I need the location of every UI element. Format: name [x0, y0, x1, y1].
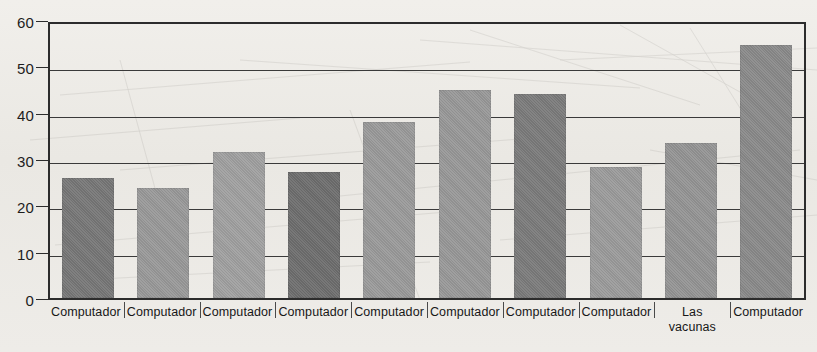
y-axis-tick-label: 40 [17, 106, 34, 123]
x-axis-label-slot: Las vacunas [654, 302, 730, 350]
x-axis-tick-label: Computador [278, 305, 348, 350]
bar[interactable] [665, 143, 717, 298]
y-axis-tick-mark [36, 160, 48, 161]
y-axis-tick-mark [36, 114, 48, 115]
x-axis-tick-label: Computador [354, 305, 424, 350]
x-axis-separator [730, 302, 731, 318]
bar[interactable] [213, 152, 265, 298]
bar[interactable] [590, 167, 642, 298]
x-axis-label-slot: Computador [730, 302, 806, 350]
x-axis-label-slot: Computador [48, 302, 124, 350]
bar-slot [125, 24, 200, 298]
y-axis-tick-label: 10 [17, 245, 34, 262]
bar[interactable] [740, 45, 792, 298]
plot-area [48, 22, 806, 300]
x-axis-label-slot: Computador [351, 302, 427, 350]
x-axis-tick-label: Computador [506, 305, 576, 350]
bar[interactable] [288, 172, 340, 298]
bar[interactable] [363, 122, 415, 298]
x-axis-separator [427, 302, 428, 318]
x-axis-label-slot: Computador [124, 302, 200, 350]
bar[interactable] [137, 188, 189, 299]
x-axis-separator [579, 302, 580, 318]
y-axis-tick-label: 0 [25, 292, 34, 309]
x-axis-tick-label: Computador [127, 305, 197, 350]
bar-slot [201, 24, 276, 298]
y-axis-tick-label: 60 [17, 14, 34, 31]
bar[interactable] [439, 90, 491, 298]
bar-series [50, 24, 804, 298]
x-axis-tick-label: Computador [51, 305, 121, 350]
x-axis-separator [351, 302, 352, 318]
x-axis-separator [200, 302, 201, 318]
bar-slot [653, 24, 728, 298]
bar-slot [50, 24, 125, 298]
x-axis-label-slot: Computador [503, 302, 579, 350]
bar-slot [502, 24, 577, 298]
x-axis-separator [124, 302, 125, 318]
x-axis-tick-label: Computador [203, 305, 273, 350]
y-axis-tick-mark [36, 21, 48, 22]
x-axis-tick-label: Computador [733, 305, 803, 350]
bar[interactable] [514, 94, 566, 298]
y-axis-tick-label: 50 [17, 60, 34, 77]
x-axis-tick-label: Computador [430, 305, 500, 350]
bar[interactable] [62, 178, 114, 298]
bar-slot [352, 24, 427, 298]
x-axis-label-slot: Computador [579, 302, 655, 350]
x-axis-label-slot: Computador [275, 302, 351, 350]
y-axis-tick-mark [36, 67, 48, 68]
y-axis-tick-mark [36, 206, 48, 207]
bar-slot [276, 24, 351, 298]
x-axis-label-slot: Computador [200, 302, 276, 350]
y-axis: 0102030405060 [0, 22, 48, 300]
x-axis-separator [503, 302, 504, 318]
bar-slot [578, 24, 653, 298]
x-axis: ComputadorComputadorComputadorComputador… [48, 302, 806, 350]
y-axis-tick-mark [36, 299, 48, 300]
x-axis-separator [275, 302, 276, 318]
bar-slot [427, 24, 502, 298]
bar-chart: 0102030405060 ComputadorComputadorComput… [0, 0, 817, 352]
x-axis-label-slot: Computador [427, 302, 503, 350]
y-axis-tick-mark [36, 253, 48, 254]
y-axis-tick-label: 30 [17, 153, 34, 170]
x-axis-tick-label: Las vacunas [669, 305, 716, 350]
y-axis-tick-label: 20 [17, 199, 34, 216]
x-axis-tick-label: Computador [582, 305, 652, 350]
x-axis-separator [654, 302, 655, 318]
bar-slot [729, 24, 804, 298]
